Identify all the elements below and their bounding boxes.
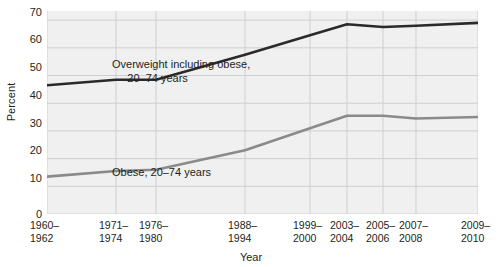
x-tick-label: 2005– 2006 xyxy=(366,219,395,245)
x-tick-label: 1971– 1974 xyxy=(99,219,128,245)
y-tick-label: 30 xyxy=(18,118,42,129)
x-tick-label: 1999– 2000 xyxy=(293,219,322,245)
y-tick-label: 40 xyxy=(18,90,42,101)
y-tick-label: 10 xyxy=(18,173,42,184)
x-tick-label: 2009– 2010 xyxy=(461,219,490,245)
y-tick-label: 50 xyxy=(18,62,42,73)
x-axis-tick-labels: 1960– 19621971– 19741976– 19801988– 1994… xyxy=(0,219,502,251)
x-tick-label: 1976– 1980 xyxy=(139,219,168,245)
series-label-overweight: Overweight including obese, 20–74 years xyxy=(112,58,250,86)
plot-svg xyxy=(47,11,478,214)
x-tick-label: 2007– 2008 xyxy=(399,219,428,245)
chart-container: Percent 70 60 50 40 30 20 10 0 Overweigh… xyxy=(0,0,502,267)
x-axis-title: Year xyxy=(0,251,502,263)
y-tick-label: 60 xyxy=(18,34,42,45)
plot-area: Overweight including obese, 20–74 years … xyxy=(47,11,478,214)
series-lines xyxy=(47,23,478,177)
series-label-obese: Obese, 20–74 years xyxy=(112,166,211,180)
y-tick-label: 20 xyxy=(18,145,42,156)
vertical-gridlines xyxy=(47,11,478,214)
x-tick-label: 1988– 1994 xyxy=(228,219,257,245)
y-tick-label: 70 xyxy=(18,7,42,18)
x-tick-label: 1960– 1962 xyxy=(30,219,59,245)
x-tick-label: 2003– 2004 xyxy=(330,219,359,245)
